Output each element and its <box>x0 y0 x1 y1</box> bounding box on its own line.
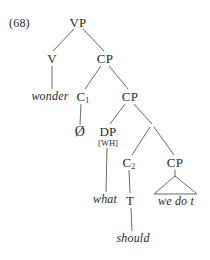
node-null-complementizer: Ø <box>75 125 85 139</box>
node-vp: VP <box>69 16 86 29</box>
edge-cp2-dp <box>110 104 125 124</box>
edge-cbar-c2 <box>132 127 150 155</box>
edge-c2-t <box>129 170 130 193</box>
syntax-tree-figure: (68) VP V CP wonder C1 CP Ø DP [WH] C2 C… <box>0 0 210 260</box>
node-dp: DP <box>99 125 116 138</box>
terminal-should: should <box>116 232 149 244</box>
node-c2: C2 <box>122 156 135 169</box>
node-cp-inner: CP <box>167 156 183 169</box>
terminal-what: what <box>93 193 117 205</box>
node-dp-wh-feature: [WH] <box>98 139 118 148</box>
node-cp-middle: CP <box>122 90 138 103</box>
terminal-wonder: wonder <box>31 90 68 102</box>
node-c1-label: C <box>76 89 85 104</box>
edge-c1-null <box>80 104 81 125</box>
example-number-text: (68) <box>9 16 30 30</box>
edge-dp-what <box>106 148 107 192</box>
example-number: (68) <box>9 17 30 29</box>
node-t: T <box>126 194 134 207</box>
node-c1-subscript: 1 <box>85 96 89 105</box>
edge-t-should <box>131 208 132 231</box>
node-v: V <box>47 52 57 65</box>
edge-cbar-cp3 <box>154 127 174 155</box>
edge-cp2-cbar <box>134 104 152 124</box>
terminal-we-do-t: we do t <box>158 195 194 207</box>
node-c2-label: C <box>122 155 131 170</box>
elided-constituent-triangle <box>154 176 197 194</box>
edge-cp1-c1 <box>85 66 101 89</box>
edge-vp-v <box>53 29 74 51</box>
edge-vp-cp1 <box>83 29 104 51</box>
edge-cp1-cp2 <box>109 66 128 89</box>
node-c1: C1 <box>76 90 89 103</box>
node-cp-outer: CP <box>97 52 113 65</box>
node-c2-subscript: 2 <box>131 162 135 171</box>
